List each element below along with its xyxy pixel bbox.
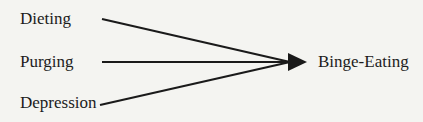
node-binge-eating: Binge-Eating <box>318 52 409 72</box>
node-purging: Purging <box>20 52 74 72</box>
edge-dieting <box>102 19 290 62</box>
node-dieting: Dieting <box>20 9 71 29</box>
node-depression: Depression <box>20 93 96 113</box>
edge-depression <box>100 62 290 105</box>
arrowhead-icon <box>288 53 307 71</box>
